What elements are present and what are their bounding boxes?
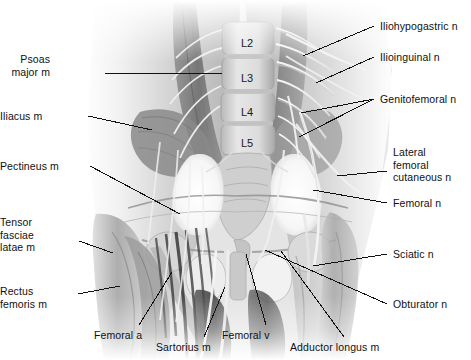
vertebra-label-l3: L3 [233, 73, 261, 84]
vertebra-label-l5: L5 [233, 138, 261, 149]
label-iliacus-m: Iliacus m [0, 110, 33, 123]
label-iliohypogastric-n: Iliohypogastric n [380, 20, 458, 33]
label-sciatic-n: Sciatic n [393, 248, 434, 261]
label-sartorius-m: Sartorius m [156, 341, 211, 354]
label-psoas-major-m: Psoas major m [0, 53, 50, 78]
label-pectineus-m: Pectineus m [0, 160, 19, 173]
label-femoral-v: Femoral v [222, 329, 270, 342]
label-ilioinguinal-n: Ilioinguinal n [380, 51, 440, 64]
pubic-symphysis [230, 252, 246, 300]
label-rectus-femoris-m: Rectus femoris m [0, 285, 21, 310]
label-tensor-fasciae-latae-m: Tensor fasciae latae m [0, 216, 28, 254]
label-obturator-n: Obturator n [393, 298, 447, 311]
label-genitofemoral-n: Genitofemoral n [380, 93, 456, 106]
label-lateral-femoral-cutaneous-n: Lateral femoral cutaneous n [393, 146, 451, 184]
label-femoral-a: Femoral a [94, 329, 142, 342]
vertebra-label-l2: L2 [233, 38, 261, 49]
anatomical-figure: L2L3L4L5 Psoas major mIliacus mPectineus… [0, 0, 471, 360]
label-adductor-longus-m: Adductor longus m [290, 341, 379, 354]
vertebra-label-l4: L4 [233, 107, 261, 118]
label-femoral-n: Femoral n [393, 197, 441, 210]
